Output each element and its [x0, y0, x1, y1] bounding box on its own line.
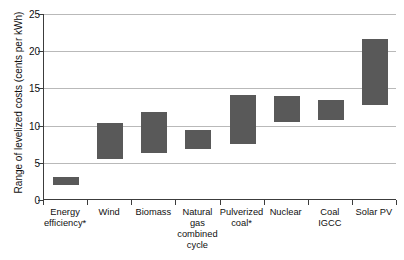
bar-solar-pv	[362, 39, 388, 105]
x-axis-label-line: Nuclear	[264, 207, 308, 218]
y-axis-tick-label: 10	[18, 120, 40, 131]
gridline	[44, 163, 396, 164]
x-axis-label-line: Coal IGCC	[308, 207, 352, 229]
x-axis-label-line: coal*	[220, 218, 264, 229]
x-axis-label-line: combined	[175, 229, 219, 240]
x-axis-label-line: Energy	[43, 207, 87, 218]
x-axis-tick-mark	[87, 200, 88, 205]
y-axis-tick-label: 25	[18, 9, 40, 20]
x-axis-label-line: Pulverized	[220, 207, 264, 218]
bar-energy-efficiency	[53, 177, 79, 185]
x-axis-tick-mark	[131, 200, 132, 205]
x-axis-label-line: Solar PV	[352, 207, 396, 218]
x-axis-tick-mark	[175, 200, 176, 205]
x-axis-tick-mark	[396, 200, 397, 205]
y-axis-title: Range of levelized costs (cents per kWh)	[13, 0, 24, 205]
x-axis-label: Pulverizedcoal*	[220, 207, 264, 229]
levelized-cost-range-chart: Range of levelized costs (cents per kWh)…	[0, 0, 404, 260]
gridline	[44, 88, 396, 89]
x-axis-label-line: Natural gas	[175, 207, 219, 229]
bar-natural-gas-combined-cycle	[185, 130, 211, 149]
x-axis-label: Nuclear	[264, 207, 308, 218]
gridline	[44, 51, 396, 52]
x-axis-label-line: cycle	[175, 240, 219, 251]
x-axis-label-line: Wind	[87, 207, 131, 218]
y-axis-tick-label: 5	[18, 157, 40, 168]
bar-coal-igcc	[318, 100, 344, 119]
x-axis-tick-mark	[352, 200, 353, 205]
x-axis-label: Wind	[87, 207, 131, 218]
x-axis-label: Natural gascombinedcycle	[175, 207, 219, 251]
y-axis-tick-label: 20	[18, 46, 40, 57]
x-axis-tick-mark	[43, 200, 44, 205]
y-axis-tick-label: 0	[18, 195, 40, 206]
x-axis-label: Coal IGCC	[308, 207, 352, 229]
plot-area	[43, 14, 396, 200]
x-axis-label: Energyefficiency*	[43, 207, 87, 229]
x-axis-label: Solar PV	[352, 207, 396, 218]
bar-wind	[97, 123, 123, 159]
gridline	[44, 14, 396, 15]
bar-nuclear	[274, 96, 300, 122]
x-axis-tick-mark	[264, 200, 265, 205]
x-axis-label-line: Biomass	[131, 207, 175, 218]
x-axis-label: Biomass	[131, 207, 175, 218]
x-axis-label-line: efficiency*	[43, 218, 87, 229]
x-axis-tick-mark	[220, 200, 221, 205]
x-axis-tick-mark	[308, 200, 309, 205]
bar-biomass	[141, 112, 167, 153]
bar-pulverized-coal	[230, 95, 256, 144]
y-axis-tick-label: 15	[18, 83, 40, 94]
